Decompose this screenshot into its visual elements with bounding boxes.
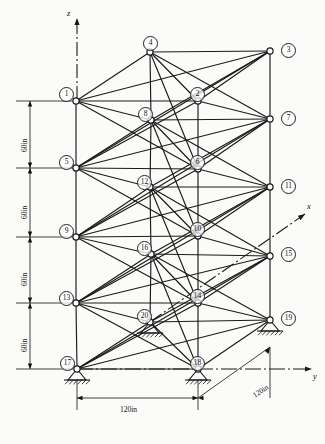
y-axis-label: y <box>313 371 317 381</box>
truss-node-5 <box>73 165 79 171</box>
support-hatch-node-17 <box>65 380 69 384</box>
truss-member-5-3 <box>76 51 270 168</box>
node-label-5: 5 <box>59 155 74 170</box>
dimension-arrowhead <box>28 298 32 304</box>
dimension-arrowhead <box>28 364 32 370</box>
truss-member-6-7 <box>198 119 270 169</box>
dimension-arrowhead <box>28 101 32 107</box>
support-hatch-node-18 <box>207 380 211 384</box>
z-axis-label: z <box>67 8 70 18</box>
node-label-11: 11 <box>281 179 296 194</box>
support-hatch-node-18 <box>186 380 190 384</box>
support-hatch-node-19 <box>275 331 279 335</box>
support-hatch-node-18 <box>199 380 203 384</box>
truss-node-7 <box>267 116 273 122</box>
support-hatch-node-17 <box>78 380 82 384</box>
truss-member-9-12 <box>76 187 150 237</box>
truss-diagram-figure: 1234567891011121314151617181920 60in 60i… <box>0 0 325 444</box>
support-hatch-node-20 <box>151 333 155 337</box>
vertical-dimension-label-1: 60in <box>20 139 29 152</box>
node-label-4: 4 <box>143 36 158 51</box>
truss-member-17-15 <box>77 256 270 369</box>
dimension-arrowhead <box>28 232 32 238</box>
support-hatch-node-20 <box>155 333 159 337</box>
truss-member-14-19 <box>198 303 270 320</box>
supports-group <box>64 320 283 384</box>
horizontal-dimension-label: 120in <box>120 405 137 414</box>
truss-member-9-10 <box>76 236 198 237</box>
truss-member-9-11 <box>76 187 270 237</box>
truss-member-2-3 <box>198 51 270 101</box>
node-label-19: 19 <box>281 311 296 326</box>
truss-node-15 <box>267 253 273 259</box>
z-axis-line-arrowhead <box>74 18 79 25</box>
support-hatch-node-17 <box>82 380 86 384</box>
dimension-arrowhead <box>265 347 271 354</box>
dimension-arrowhead <box>28 163 32 169</box>
node-label-15: 15 <box>281 247 296 262</box>
truss-node-11 <box>267 184 273 190</box>
vertical-dimension-label-4: 60in <box>20 339 29 352</box>
truss-member-8-7 <box>151 119 270 120</box>
node-label-20: 20 <box>137 309 152 324</box>
support-hatch-node-20 <box>146 333 150 337</box>
support-hatch-node-19 <box>262 331 266 335</box>
truss-member-4-6 <box>150 52 198 169</box>
truss-member-18-19 <box>198 320 270 369</box>
truss-member-5-6 <box>76 168 198 169</box>
truss-member-8-10 <box>151 120 198 236</box>
truss-member-1-4 <box>76 52 150 101</box>
vertical-dimension-label-2: 60in <box>20 206 29 219</box>
node-label-2: 2 <box>190 87 205 102</box>
node-label-3: 3 <box>281 43 296 58</box>
node-label-14: 14 <box>190 289 205 304</box>
x-axis-line <box>150 214 305 322</box>
x-axis-line-arrowhead <box>298 214 305 220</box>
truss-member-14-15 <box>198 256 270 303</box>
truss-node-3 <box>267 48 273 54</box>
y-axis-line-arrowhead <box>305 366 312 371</box>
node-label-13: 13 <box>59 291 74 306</box>
truss-member-2-7 <box>198 101 270 119</box>
dimension-arrowhead <box>77 396 83 400</box>
node-label-6: 6 <box>190 155 205 170</box>
support-hatch-node-19 <box>279 331 283 335</box>
node-label-7: 7 <box>281 111 296 126</box>
truss-member-10-11 <box>198 187 270 236</box>
node-label-10: 10 <box>190 222 205 237</box>
support-hatch-node-19 <box>266 331 270 335</box>
support-hatch-node-18 <box>190 380 194 384</box>
vertical-dimension-label-3: 60in <box>20 273 29 286</box>
truss-members-group <box>76 51 270 369</box>
node-label-8: 8 <box>138 107 153 122</box>
dimension-arrowhead <box>193 396 199 400</box>
truss-node-1 <box>73 98 79 104</box>
truss-node-13 <box>73 300 79 306</box>
support-hatch-node-17 <box>86 380 90 384</box>
support-hatch-node-17 <box>69 380 73 384</box>
support-hatch-node-18 <box>203 380 207 384</box>
truss-member-9-7 <box>76 119 270 237</box>
node-label-16: 16 <box>137 241 152 256</box>
x-axis-label: x <box>307 201 311 211</box>
node-label-17: 17 <box>60 356 75 371</box>
node-label-9: 9 <box>59 224 74 239</box>
truss-node-19 <box>267 317 273 323</box>
truss-member-13-15 <box>76 256 270 303</box>
truss-member-16-15 <box>151 254 270 256</box>
support-hatch-node-19 <box>258 331 262 335</box>
truss-member-4-3 <box>150 51 270 52</box>
support-hatch-node-19 <box>271 331 275 335</box>
truss-member-6-11 <box>198 169 270 187</box>
dimension-arrowhead <box>28 237 32 243</box>
dimension-arrowhead <box>28 168 32 174</box>
dimension-arrowhead <box>28 303 32 309</box>
truss-node-17 <box>74 366 80 372</box>
node-label-18: 18 <box>190 356 205 371</box>
node-label-12: 12 <box>137 175 152 190</box>
truss-svg-canvas <box>0 0 325 444</box>
truss-member-20-19 <box>150 320 270 322</box>
truss-node-9 <box>73 234 79 240</box>
truss-member-13-17 <box>76 303 77 369</box>
node-label-1: 1 <box>59 87 74 102</box>
